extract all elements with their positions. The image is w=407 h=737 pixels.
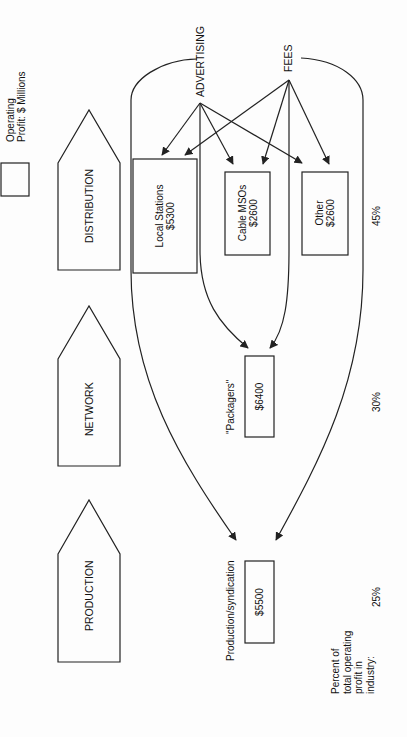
advertising-to-local-arrow [162,103,200,155]
production-syndication-value: $5500 [254,561,265,643]
fees-to-other-arrow [289,80,329,164]
legend-line-2: Profit: $ Millions [16,71,27,142]
legend-box-icon [1,163,29,196]
percent-heading-line-1: Percent of [330,631,342,694]
local-stations-value: $5300 [165,166,176,266]
other-name: Other [314,178,325,248]
production-percent: 25% [371,587,382,607]
advertising-to-production-arrow [131,59,236,540]
cable-msos-label: Cable MSOs $2600 [237,178,259,248]
legend-label: Operating Profit: $ Millions [5,71,27,142]
fees-to-cable-arrow [263,80,289,164]
percent-heading-line-2: total operating [342,631,354,694]
local-stations-name: Local Stations [154,166,165,266]
network-percent: 30% [371,392,382,412]
legend-line-1: Operating [5,71,16,142]
fees-to-packagers-arrow [270,80,289,348]
advertising-label: ADVERTISING [195,26,206,97]
cable-msos-value: $2600 [248,178,259,248]
percent-heading-line-3: profit in [353,631,365,694]
fees-label: FEES [283,45,294,72]
other-label: Other $2600 [314,178,336,248]
local-stations-label: Local Stations $5300 [154,166,176,266]
percent-heading-line-4: industry: [365,631,377,694]
other-value: $2600 [325,178,336,248]
packagers-label: "Packagers" [225,380,236,434]
stage-distribution-label: DISTRIBUTION [84,169,95,243]
packagers-value: $6400 [254,356,265,437]
stage-network-label: NETWORK [84,382,95,436]
distribution-percent: 45% [371,206,382,226]
production-syndication-label: Production/syndication [225,560,236,661]
stage-production-label: PRODUCTION [84,560,95,631]
cable-msos-name: Cable MSOs [237,178,248,248]
percent-heading: Percent of total operating profit in ind… [330,631,376,694]
diagram-canvas [0,0,407,737]
